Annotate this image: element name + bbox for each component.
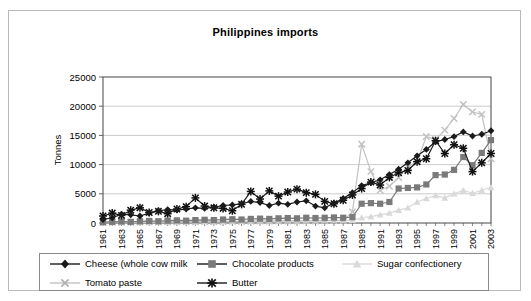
x-tick-label: 1975 bbox=[228, 229, 238, 249]
y-tick-label: 20000 bbox=[70, 101, 96, 112]
x-tick-label: 1963 bbox=[117, 229, 127, 249]
legend-row-2: Tomato paste Butter bbox=[40, 273, 490, 292]
legend-marker-diamond-icon bbox=[48, 258, 82, 270]
legend-label-chocolate: Chocolate products bbox=[229, 258, 314, 269]
series-tomato-paste bbox=[100, 101, 494, 225]
chart-frame: Philippines imports 05000100001500020000… bbox=[8, 10, 521, 291]
legend-marker-square-icon bbox=[195, 258, 229, 270]
x-tick-label: 1999 bbox=[449, 229, 459, 249]
x-tick-label: 1991 bbox=[376, 229, 386, 249]
legend-label-butter: Butter bbox=[229, 277, 257, 288]
legend-label-cheese: Cheese (whole cow milk bbox=[82, 258, 187, 269]
legend-item-cheese[interactable]: Cheese (whole cow milk bbox=[48, 254, 187, 273]
x-tick-label: 1987 bbox=[339, 229, 349, 249]
x-tick-label: 1985 bbox=[320, 229, 330, 249]
y-tick-label: 25000 bbox=[70, 72, 96, 83]
y-tick-label: 0 bbox=[91, 218, 96, 229]
y-axis-title: Tonnes bbox=[52, 134, 63, 165]
x-tick-label: 1989 bbox=[357, 229, 367, 249]
x-tick-label: 1969 bbox=[172, 229, 182, 249]
chart-legend: Cheese (whole cow milk Chocolate product… bbox=[39, 253, 489, 291]
x-tick-label: 2003 bbox=[486, 229, 496, 249]
x-tick-label: 1977 bbox=[246, 229, 256, 249]
x-tick-label: 2001 bbox=[468, 229, 478, 249]
chart-canvas: 0500010000150002000025000Tonnes196119631… bbox=[9, 11, 522, 292]
y-tick-label: 5000 bbox=[75, 188, 96, 199]
legend-item-butter[interactable]: Butter bbox=[195, 273, 257, 292]
legend-marker-triangle-icon bbox=[340, 258, 374, 270]
x-tick-label: 1961 bbox=[98, 229, 108, 249]
x-tick-label: 1983 bbox=[302, 229, 312, 249]
x-tick-label: 1967 bbox=[154, 229, 164, 249]
x-tick-label: 1979 bbox=[265, 229, 275, 249]
legend-row-1: Cheese (whole cow milk Chocolate product… bbox=[40, 254, 490, 273]
y-tick-label: 15000 bbox=[70, 130, 96, 141]
legend-item-chocolate[interactable]: Chocolate products bbox=[195, 254, 314, 273]
x-tick-label: 1997 bbox=[431, 229, 441, 249]
legend-marker-x-icon bbox=[48, 277, 82, 289]
x-tick-label: 1971 bbox=[191, 229, 201, 249]
x-tick-label: 1973 bbox=[209, 229, 219, 249]
legend-label-sugar: Sugar confectionery bbox=[374, 258, 462, 269]
legend-label-tomato: Tomato paste bbox=[82, 277, 142, 288]
x-tick-label: 1965 bbox=[135, 229, 145, 249]
legend-marker-star-icon bbox=[195, 277, 229, 289]
x-tick-label: 1995 bbox=[412, 229, 422, 249]
legend-item-sugar[interactable]: Sugar confectionery bbox=[340, 254, 462, 273]
y-tick-label: 10000 bbox=[70, 159, 96, 170]
x-tick-label: 1981 bbox=[283, 229, 293, 249]
legend-item-tomato[interactable]: Tomato paste bbox=[48, 273, 142, 292]
plot-area: 0500010000150002000025000Tonnes196119631… bbox=[9, 11, 522, 292]
x-tick-label: 1993 bbox=[394, 229, 404, 249]
